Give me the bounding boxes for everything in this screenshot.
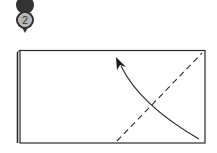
step-number: 2 (22, 15, 28, 26)
step-marker: 2 (16, 0, 34, 33)
paper-rectangle (20, 51, 205, 144)
fold-diagram: 2 (0, 0, 217, 153)
